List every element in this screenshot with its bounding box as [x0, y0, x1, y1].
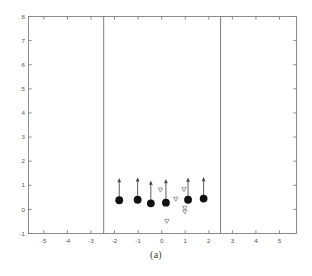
y-tick-label: 8: [22, 13, 26, 20]
y-tick-label: -1: [19, 230, 25, 237]
agent-marker: [162, 199, 170, 207]
x-tick-label: 5: [278, 237, 282, 244]
agent-marker: [134, 196, 142, 204]
agent-marker: [200, 195, 208, 203]
y-tick-label: 5: [22, 85, 26, 92]
agent-marker: [184, 196, 192, 204]
y-tick-label: 2: [22, 157, 26, 164]
y-tick-label: 1: [22, 181, 26, 188]
x-tick-label: -4: [65, 237, 71, 244]
y-tick-label: 7: [22, 37, 26, 44]
y-tick-label: 6: [22, 61, 26, 68]
x-axis-tick-labels: -5-4-3-2-1012345: [41, 237, 282, 244]
figure-caption: (a): [0, 249, 312, 260]
agent-marker: [147, 199, 155, 207]
y-axis-tick-labels: -1012345678: [19, 13, 25, 237]
x-tick-label: -1: [135, 237, 141, 244]
x-tick-label: -2: [112, 237, 118, 244]
y-tick-label: 4: [22, 109, 26, 116]
y-tick-label: 3: [22, 133, 26, 140]
x-tick-label: 4: [254, 237, 258, 244]
x-tick-label: -3: [88, 237, 94, 244]
agent-marker: [115, 196, 123, 204]
x-tick-label: 1: [184, 237, 188, 244]
figure-container: -5-4-3-2-1012345 -1012345678 (a): [0, 0, 312, 276]
y-tick-label: 0: [22, 206, 26, 213]
x-tick-label: -5: [41, 237, 47, 244]
scatter-plot: -5-4-3-2-1012345 -1012345678: [0, 0, 312, 276]
x-tick-label: 2: [207, 237, 211, 244]
x-tick-label: 0: [160, 237, 164, 244]
x-tick-label: 3: [231, 237, 235, 244]
